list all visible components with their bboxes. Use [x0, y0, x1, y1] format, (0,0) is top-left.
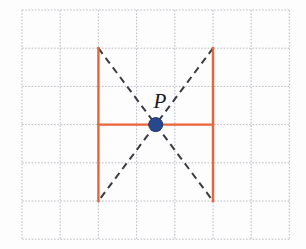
point-P-label: P: [153, 89, 167, 113]
geometry-figure: P: [0, 0, 306, 249]
figure-canvas: P: [0, 0, 306, 249]
point-P-dot: [149, 118, 163, 132]
